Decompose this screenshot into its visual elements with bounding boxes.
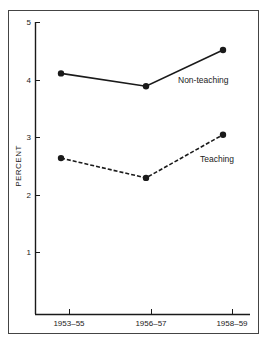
x-ticks	[70, 309, 233, 314]
y-tick-label: 5	[27, 18, 32, 27]
data-point	[58, 155, 64, 161]
y-tick-label: 3	[27, 133, 32, 142]
x-tick-labels: 1953–55 1956–57 1958–59	[53, 319, 248, 328]
line-chart: 5 4 3 2 1 PERCENT 1953–55 1956–57 1958–5…	[0, 0, 262, 338]
y-tick-label: 1	[27, 248, 32, 257]
y-tick-labels: 5 4 3 2 1	[27, 18, 32, 257]
data-point	[220, 47, 226, 53]
data-point	[58, 70, 64, 76]
data-point	[143, 83, 149, 89]
y-tick-label: 4	[27, 76, 32, 85]
data-point	[143, 175, 149, 181]
series-label-non-teaching: Non-teaching	[178, 75, 229, 85]
y-tick-label: 2	[27, 191, 32, 200]
chart-frame	[9, 11, 259, 334]
x-tick-label: 1953–55	[53, 319, 85, 328]
series-line	[61, 135, 223, 178]
data-point	[220, 132, 226, 138]
x-tick-label: 1956–57	[135, 319, 167, 328]
series-label-teaching: Teaching	[200, 154, 234, 164]
x-tick-label: 1958–59	[216, 319, 248, 328]
y-axis-title: PERCENT	[14, 145, 23, 187]
